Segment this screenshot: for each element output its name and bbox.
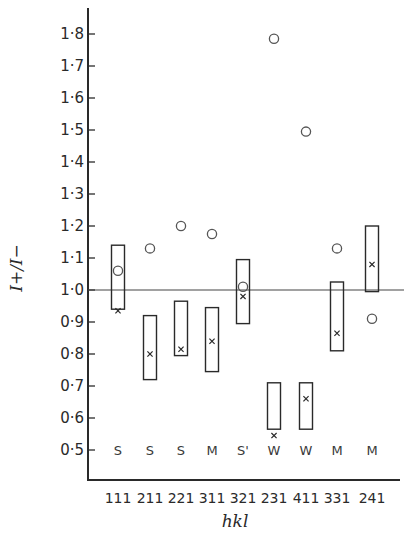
calculated-markers bbox=[113, 34, 376, 323]
x-marker bbox=[147, 351, 152, 356]
y-tick-label: 1·2 bbox=[60, 217, 84, 235]
range-box bbox=[175, 301, 188, 355]
circle-marker bbox=[207, 229, 216, 238]
circle-marker bbox=[269, 34, 278, 43]
y-tick-label: 1·7 bbox=[60, 57, 84, 75]
intensity-label: W bbox=[300, 443, 313, 458]
x-tick-label: 211 bbox=[137, 490, 164, 506]
x-tick-label: 311 bbox=[199, 490, 226, 506]
circle-marker bbox=[113, 266, 122, 275]
range-box bbox=[206, 308, 219, 372]
x-marker bbox=[271, 433, 276, 438]
circle-marker bbox=[332, 244, 341, 253]
y-axis-title: I+/I− bbox=[6, 244, 26, 293]
observed-markers bbox=[115, 262, 374, 438]
y-tick-label: 0·7 bbox=[60, 377, 84, 395]
range-box bbox=[112, 245, 125, 309]
x-marker bbox=[334, 331, 339, 336]
intensity-label: S' bbox=[237, 443, 249, 458]
range-box bbox=[144, 316, 157, 380]
circle-marker bbox=[301, 127, 310, 136]
range-boxes bbox=[112, 226, 379, 429]
x-tick-label: 331 bbox=[324, 490, 351, 506]
y-tick-label: 0·9 bbox=[60, 313, 84, 331]
x-tick-label: 241 bbox=[359, 490, 386, 506]
y-ticks: 0·50·60·70·80·91·01·11·21·31·41·51·61·71… bbox=[60, 25, 95, 459]
y-tick-label: 1·6 bbox=[60, 89, 84, 107]
intensity-label: S bbox=[146, 443, 154, 458]
intensity-label: S bbox=[177, 443, 185, 458]
intensity-labels: SSSMS'WWMM bbox=[114, 443, 378, 458]
circle-marker bbox=[176, 221, 185, 230]
circle-marker bbox=[145, 244, 154, 253]
x-tick-label: 321 bbox=[230, 490, 257, 506]
y-tick-label: 0·5 bbox=[60, 441, 84, 459]
range-box bbox=[268, 383, 281, 429]
x-tick-labels: 111211221311321231411331241 bbox=[105, 490, 386, 506]
x-marker bbox=[303, 396, 308, 401]
x-marker bbox=[240, 294, 245, 299]
x-tick-label: 221 bbox=[168, 490, 195, 506]
circle-marker bbox=[367, 314, 376, 323]
range-box bbox=[366, 226, 379, 292]
x-tick-label: 111 bbox=[105, 490, 132, 506]
intensity-label: M bbox=[331, 443, 342, 458]
range-box bbox=[331, 282, 344, 351]
y-tick-label: 1·4 bbox=[60, 153, 84, 171]
intensity-label: W bbox=[268, 443, 281, 458]
y-tick-label: 0·8 bbox=[60, 345, 84, 363]
chart: 0·50·60·70·80·91·01·11·21·31·41·51·61·71… bbox=[0, 0, 417, 547]
intensity-label: M bbox=[206, 443, 217, 458]
x-tick-label: 411 bbox=[293, 490, 320, 506]
axes bbox=[87, 8, 400, 480]
intensity-label: S bbox=[114, 443, 122, 458]
range-box bbox=[300, 383, 313, 429]
y-tick-label: 1·8 bbox=[60, 25, 84, 43]
y-tick-label: 1·3 bbox=[60, 185, 84, 203]
x-marker bbox=[369, 262, 374, 267]
y-tick-label: 1·5 bbox=[60, 121, 84, 139]
x-tick-label: 231 bbox=[261, 490, 288, 506]
intensity-label: M bbox=[366, 443, 377, 458]
x-axis-title: hkl bbox=[222, 511, 249, 531]
y-tick-label: 0·6 bbox=[60, 409, 84, 427]
y-tick-label: 1·1 bbox=[60, 249, 84, 267]
y-tick-label: 1·0 bbox=[60, 281, 84, 299]
x-marker bbox=[178, 347, 183, 352]
x-marker bbox=[209, 339, 214, 344]
